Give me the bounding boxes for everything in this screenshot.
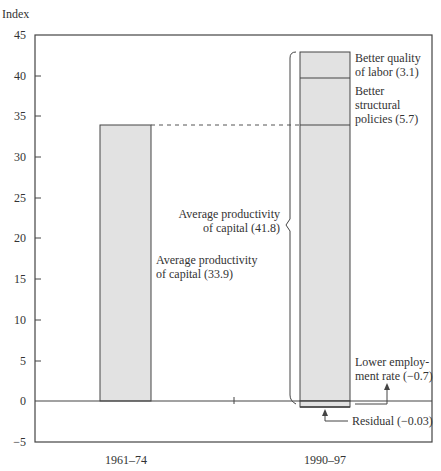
x-label-1990-97: 1990–97: [304, 453, 346, 467]
bar1-label-line2: of capital (33.9): [156, 267, 233, 281]
y-tick-label: 45: [14, 28, 26, 42]
bar1-label-line1: Average productivity: [156, 253, 257, 267]
y-tick-label: 10: [14, 313, 26, 327]
y-tick-label: 15: [14, 272, 26, 286]
x-label-1961-74: 1961–74: [105, 453, 147, 467]
policy-label-line1: Better: [355, 84, 384, 98]
bracket-icon: [286, 52, 296, 404]
y-axis: 45 40 35 30 25 20 15 10 5 0 −5: [13, 28, 41, 449]
residual-arrow-line: [325, 411, 348, 421]
y-tick-label: −5: [13, 435, 26, 449]
y-tick-label: 20: [14, 231, 26, 245]
arrow-up-icon: [322, 409, 328, 416]
labor-label-line1: Better quality: [355, 51, 421, 65]
policy-label-line2: structural: [355, 98, 401, 112]
labor-label-line2: of labor (3.1): [355, 65, 419, 79]
employ-label-line1: Lower employ-: [355, 355, 429, 369]
y-tick-label: 25: [14, 191, 26, 205]
policy-label-line3: policies (5.7): [355, 112, 418, 126]
bracket-label-line2: of capital (41.8): [203, 221, 280, 235]
chart: Index 45 40 35 30 25 20 15 10 5 0 −5: [0, 0, 441, 471]
bar-segment-employment: [300, 401, 350, 407]
y-tick-label: 35: [14, 109, 26, 123]
bracket-label-line1: Average productivity: [179, 207, 280, 221]
y-tick-label: 0: [20, 394, 26, 408]
y-tick-label: 40: [14, 69, 26, 83]
bar-1961-74: [100, 125, 151, 401]
y-tick-label: 5: [20, 354, 26, 368]
arrow-up-icon: [384, 383, 390, 390]
employ-label-line2: ment rate (−0.7): [355, 369, 433, 383]
bar-1990-97: [300, 52, 350, 407]
y-tick-label: 30: [14, 150, 26, 164]
residual-label: Residual (−0.03): [352, 414, 433, 428]
y-axis-title: Index: [2, 7, 29, 21]
bar-segment-total: [300, 52, 350, 401]
